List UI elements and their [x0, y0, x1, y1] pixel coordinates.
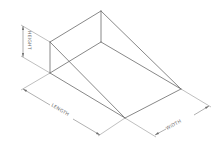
length-dimension-line-b: [73, 119, 100, 135]
length-label: LENGTH: [50, 103, 70, 117]
edge-base-bottom: [125, 89, 181, 118]
width-extension-right: [181, 89, 211, 107]
height-extension-top: [21, 25, 50, 42]
height-extension-bottom: [21, 56, 50, 73]
wedge-edges: [50, 11, 181, 118]
length-extension-right: [98, 118, 125, 136]
length-dimension-line-a: [23, 89, 50, 105]
edge-top-front-to-back: [50, 11, 101, 42]
width-dimension: WIDTH: [125, 89, 211, 137]
width-arrow-left: [155, 132, 159, 135]
width-arrow-right: [205, 106, 209, 109]
wedge-drawing: HEIGHT LENGTH WIDTH: [0, 0, 223, 145]
length-extension-left: [21, 73, 50, 90]
length-arrow-right: [96, 132, 100, 135]
edge-base-right: [101, 42, 181, 89]
width-extension-left: [125, 118, 156, 137]
length-dimension: LENGTH: [21, 73, 125, 136]
edge-slope-back: [101, 11, 181, 89]
length-arrow-left: [23, 89, 27, 92]
wedge-diagram: HEIGHT LENGTH WIDTH: [0, 0, 223, 145]
height-arrow-bottom: [22, 53, 24, 57]
height-label: HEIGHT: [27, 31, 32, 50]
height-dimension: HEIGHT: [21, 25, 50, 73]
width-label: WIDTH: [165, 118, 182, 130]
